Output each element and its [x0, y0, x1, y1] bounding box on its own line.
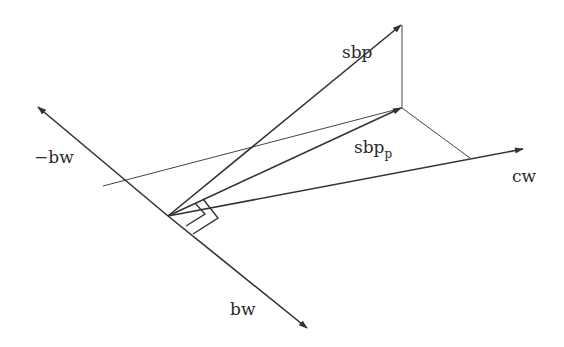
- vector-cw: [168, 149, 523, 216]
- label-bw: bw: [230, 299, 256, 319]
- label-sbp: sbp: [342, 42, 373, 62]
- label-sbp-p: sbpp: [354, 137, 393, 161]
- vector-diagram: sbp sbpp −bw bw cw: [0, 0, 564, 347]
- label-neg-bw: −bw: [34, 147, 74, 167]
- label-cw: cw: [512, 166, 537, 186]
- projection-line-sbp_p-to-cw: [402, 108, 470, 158]
- label-sbp-p-subscript: p: [385, 147, 393, 161]
- label-sbp-p-base: sbp: [354, 137, 385, 157]
